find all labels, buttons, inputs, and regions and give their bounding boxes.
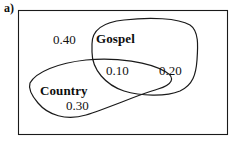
set-label-country: Country <box>40 84 88 97</box>
region-value-gospel-only: 0.20 <box>159 64 182 77</box>
region-value-country-only: 0.30 <box>66 99 89 112</box>
venn-diagram-figure: a) Gospel Country 0.40 0.10 0.20 0.30 <box>0 0 243 143</box>
set-label-gospel: Gospel <box>96 32 135 45</box>
part-label: a) <box>4 2 14 14</box>
region-value-outside-both: 0.40 <box>53 33 76 46</box>
gospel-set-outline <box>92 18 198 95</box>
region-value-intersection: 0.10 <box>106 64 129 77</box>
